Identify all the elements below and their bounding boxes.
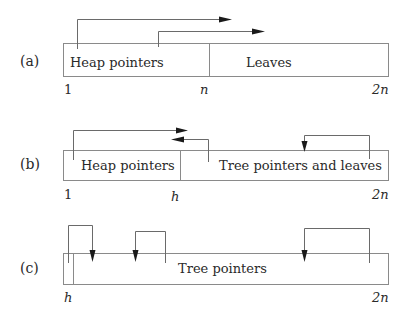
tick-1: 1 bbox=[64, 82, 72, 97]
arrow-down-icon bbox=[133, 232, 166, 264]
tick-n: n bbox=[200, 82, 208, 97]
panel-b-label: (b) bbox=[20, 156, 40, 172]
panel-a: (a) Heap pointers Leaves 1 n 2n bbox=[20, 17, 389, 98]
segment-tree-pointers: Tree pointers bbox=[178, 261, 267, 276]
memory-layout-diagram: (a) Heap pointers Leaves 1 n 2n (b) Heap… bbox=[0, 0, 409, 319]
segment-heap-pointers: Heap pointers bbox=[81, 158, 175, 173]
arrow-left-icon bbox=[171, 137, 209, 163]
tick-h: h bbox=[171, 189, 179, 204]
tick-h: h bbox=[64, 290, 72, 305]
panel-a-label: (a) bbox=[20, 53, 39, 69]
panel-c: (c) Tree pointers h 2n bbox=[20, 226, 389, 306]
segment-heap-pointers: Heap pointers bbox=[70, 55, 164, 70]
arrow-down-icon bbox=[69, 226, 96, 264]
segment-leaves: Leaves bbox=[246, 55, 292, 70]
arrow-right-icon bbox=[159, 29, 266, 48]
arrow-down-icon bbox=[302, 136, 370, 160]
arrow-right-icon bbox=[74, 128, 189, 161]
tick-2n: 2n bbox=[371, 290, 389, 305]
tick-2n: 2n bbox=[371, 187, 389, 202]
tick-1: 1 bbox=[64, 187, 72, 202]
panel-b: (b) Heap pointers Tree pointers and leav… bbox=[20, 128, 389, 205]
arrow-down-icon bbox=[302, 229, 370, 264]
tick-2n: 2n bbox=[371, 82, 389, 97]
arrow-right-icon bbox=[78, 17, 233, 50]
panel-c-label: (c) bbox=[20, 260, 39, 276]
segment-tree-pointers-and-leaves: Tree pointers and leaves bbox=[219, 158, 382, 173]
